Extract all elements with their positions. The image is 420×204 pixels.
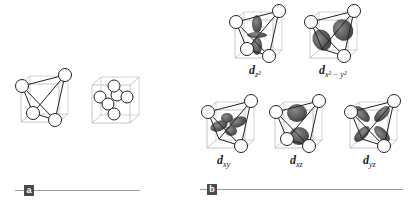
diagram-canvas bbox=[0, 0, 420, 204]
panel-b-tag: b bbox=[207, 184, 217, 195]
panel-b-rule bbox=[200, 189, 403, 190]
orbital-dz2 bbox=[230, 5, 286, 63]
octahedral-figure bbox=[92, 77, 139, 123]
orbital-dyz bbox=[345, 95, 401, 153]
label-dx2-y2: dx² − y² bbox=[319, 63, 346, 79]
orbital-dx2-y2 bbox=[305, 5, 361, 63]
panel-a-tag: a bbox=[24, 185, 34, 196]
orbital-dxy bbox=[202, 95, 258, 153]
label-dxy: dxy bbox=[217, 153, 230, 169]
orbital-dxz bbox=[270, 95, 326, 153]
label-dz2: dz² bbox=[249, 63, 261, 79]
label-dyz: dyz bbox=[363, 153, 376, 169]
label-dxz: dxz bbox=[290, 153, 303, 169]
tetrahedral-figure bbox=[16, 69, 72, 127]
